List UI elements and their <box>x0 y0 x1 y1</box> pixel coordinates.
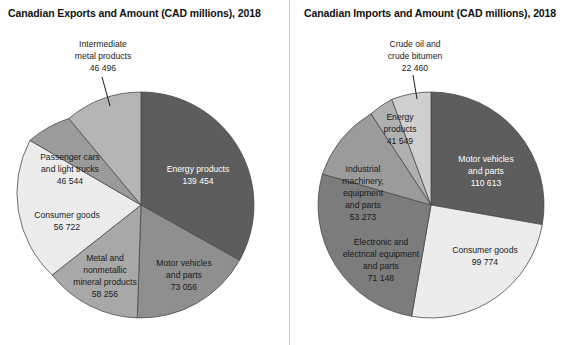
panel-exports: Canadian Exports and Amount (CAD million… <box>0 0 289 345</box>
svg-text:Metal and: Metal and <box>86 253 124 263</box>
svg-text:equipment: equipment <box>343 188 384 198</box>
svg-text:73 056: 73 056 <box>171 282 198 292</box>
svg-text:139 454: 139 454 <box>182 176 213 186</box>
svg-text:71 148: 71 148 <box>368 273 395 283</box>
svg-text:41 549: 41 549 <box>387 136 414 146</box>
exports-pie-svg: Energy products 139 454 Motor vehicles a… <box>0 0 289 345</box>
svg-text:mineral products: mineral products <box>73 277 137 287</box>
svg-text:46 496: 46 496 <box>90 63 117 73</box>
svg-text:crude bitumen: crude bitumen <box>388 51 443 61</box>
svg-text:110 613: 110 613 <box>471 178 502 188</box>
svg-text:Intermediate: Intermediate <box>79 39 127 49</box>
imports-pie-svg: Motor vehicles and parts 110 613 Consume… <box>290 0 578 345</box>
callout-label-crude-oil: Crude oil and crude bitumen 22 460 <box>388 39 443 73</box>
svg-text:Consumer goods: Consumer goods <box>452 245 517 255</box>
svg-text:Industrial: Industrial <box>346 164 381 174</box>
svg-text:Motor vehicles: Motor vehicles <box>156 258 211 268</box>
svg-text:99 774: 99 774 <box>472 257 499 267</box>
exports-pie-chart: Energy products 139 454 Motor vehicles a… <box>0 0 289 345</box>
svg-text:Energy products: Energy products <box>167 164 230 174</box>
svg-text:and parts: and parts <box>345 200 381 210</box>
svg-text:and parts: and parts <box>363 261 399 271</box>
svg-text:Electronic and: Electronic and <box>354 237 409 247</box>
svg-text:and light trucks: and light trucks <box>41 164 99 174</box>
svg-text:Energy: Energy <box>386 112 414 122</box>
svg-text:Consumer goods: Consumer goods <box>34 210 99 220</box>
svg-text:nonmetallic: nonmetallic <box>83 265 127 275</box>
pie-chart-pair: Canadian Exports and Amount (CAD million… <box>0 0 578 345</box>
svg-text:22 460: 22 460 <box>402 63 429 73</box>
svg-text:machinery,: machinery, <box>342 176 383 186</box>
svg-text:56 722: 56 722 <box>54 222 81 232</box>
svg-text:Passenger cars: Passenger cars <box>40 152 100 162</box>
slice-label-energy-products: Energy products 41 549 <box>384 112 417 146</box>
svg-text:and parts: and parts <box>468 166 504 176</box>
svg-text:53 273: 53 273 <box>350 212 377 222</box>
svg-text:46 544: 46 544 <box>57 176 84 186</box>
svg-text:metal products: metal products <box>75 51 131 61</box>
svg-text:and parts: and parts <box>166 270 202 280</box>
svg-text:products: products <box>384 124 417 134</box>
svg-text:58 256: 58 256 <box>92 289 119 299</box>
callout-label-intermediate-metal: Intermediate metal products 46 496 <box>75 39 131 73</box>
panel-imports: Canadian Imports and Amount (CAD million… <box>289 0 578 345</box>
svg-text:Crude oil and: Crude oil and <box>389 39 440 49</box>
svg-text:electrical equipment: electrical equipment <box>343 249 420 259</box>
svg-text:Motor vehicles: Motor vehicles <box>458 154 513 164</box>
imports-pie-chart: Motor vehicles and parts 110 613 Consume… <box>290 0 578 345</box>
